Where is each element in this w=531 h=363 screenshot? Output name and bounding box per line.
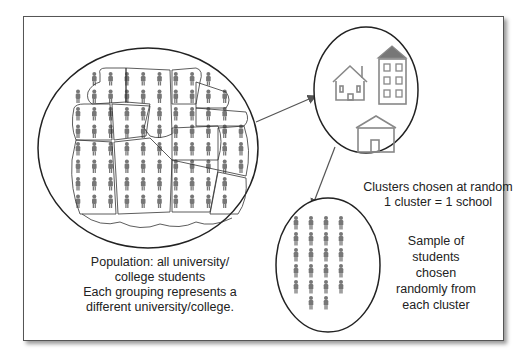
sample-label-line-1: Sample of bbox=[376, 233, 496, 249]
sample-label: Sample of students chosen randomly from … bbox=[376, 233, 496, 313]
clusters-label: Clusters chosen at random 1 cluster = 1 … bbox=[358, 180, 518, 210]
population-label: Population: all university/ college stud… bbox=[70, 255, 250, 315]
clusters-label-line-2: 1 cluster = 1 school bbox=[358, 195, 518, 210]
clusters-label-line-1: Clusters chosen at random bbox=[358, 180, 518, 195]
arrow-population-to-clusters bbox=[256, 96, 316, 122]
sample-label-line-5: each cluster bbox=[376, 297, 496, 313]
population-label-line-4: different university/college. bbox=[70, 300, 250, 315]
population-label-line-2: college students bbox=[70, 270, 250, 285]
sample-label-line-3: chosen bbox=[376, 265, 496, 281]
sample-label-line-4: randomly from bbox=[376, 281, 496, 297]
population-label-line-3: Each grouping represents a bbox=[70, 285, 250, 300]
sample-circle bbox=[276, 198, 380, 332]
population-label-line-1: Population: all university/ bbox=[70, 255, 250, 270]
sample-label-line-2: students bbox=[376, 249, 496, 265]
